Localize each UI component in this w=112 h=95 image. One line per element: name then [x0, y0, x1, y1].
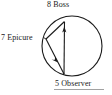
label-epicure: 7 Epicure	[1, 33, 33, 42]
label-observer: 5 Observer	[55, 79, 91, 88]
chord-boss-epicure	[46, 22, 65, 40]
label-boss: 8 Boss	[47, 0, 69, 9]
main-circle	[42, 16, 102, 76]
geometry-diagram: 8 Boss 7 Epicure 5 Observer	[0, 0, 112, 95]
chord-epicure-observer	[46, 39, 64, 74]
epicure-leader-line	[44, 38, 47, 40]
